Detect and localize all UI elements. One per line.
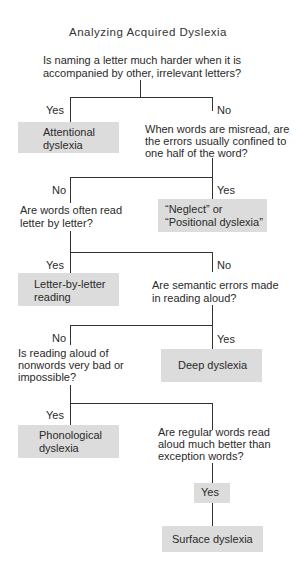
connector-yes-to-surface [212,503,213,526]
outcome-attentional-line2: dyslexia [43,139,119,152]
outcome-surface-line1: Surface dyslexia [172,533,263,546]
connector-q1-no [212,97,213,111]
question-2-line1: When words are misread, are [145,123,289,135]
outcome-phonological-dyslexia: Phonological dyslexia [18,425,119,458]
question-5-line3: impossible? [18,371,124,383]
outcome-neglect-line2: “Positional dyslexia” [165,216,267,229]
question-5: Is reading aloud of nonwords very bad or… [18,347,124,383]
label-q6-yes: Yes [201,486,230,499]
outcome-phonological-line2: dyslexia [39,442,119,455]
connector-q4-yes [212,325,213,349]
question-2-line3: one half of the word? [145,147,289,159]
outcome-deep-dyslexia: Deep dyslexia [161,349,262,382]
question-3: Are words often read letter by letter? [20,204,122,229]
outcome-surface-dyslexia: Surface dyslexia [162,526,263,552]
connector-q1-yes [70,97,71,122]
connector-q5-yes [70,403,71,425]
diagram-title: Analyzing Acquired Dyslexia [0,26,296,38]
outcome-letter-by-letter-line2: reading [34,291,119,304]
label-q1-yes: Yes [46,104,64,116]
outcome-letter-by-letter-reading: Letter-by-letter reading [18,273,119,306]
connector-q3-no [212,252,213,272]
connector-q2-yes [212,177,213,199]
connector-q4-branch [70,325,213,326]
label-q2-no: No [52,184,66,196]
connector-q2-no [70,177,71,203]
question-1: Is naming a letter much harder when it i… [43,54,241,79]
label-q3-yes: Yes [46,259,64,271]
outcome-letter-by-letter-line1: Letter-by-letter [34,278,119,291]
outcome-attentional-line1: Attentional [43,126,119,139]
question-1-line1: Is naming a letter much harder when it i… [43,54,241,67]
connector-q2-branch [70,177,213,178]
question-6-line1: Are regular words read [158,426,271,438]
question-3-line1: Are words often read [20,204,122,217]
connector-q5-branch [70,403,213,404]
outcome-phonological-line1: Phonological [39,429,119,442]
question-2-line2: the errors usually confined to [145,135,289,147]
label-q3-no: No [217,259,231,271]
question-4: Are semantic errors made in reading alou… [152,279,279,304]
label-q6-yes-box: Yes [194,483,230,503]
outcome-attentional-dyslexia: Attentional dyslexia [18,122,119,153]
connector-q6-down [212,463,213,483]
question-5-line2: nonwords very bad or [18,359,124,371]
outcome-neglect-positional-dyslexia: “Neglect” or “Positional dyslexia” [158,199,267,232]
outcome-neglect-line1: “Neglect” or [165,203,267,216]
connector-q1-down [140,80,141,98]
question-6: Are regular words read aloud much better… [158,426,271,462]
question-1-line2: accompanied by other, irrelevant letters… [43,67,241,80]
outcome-deep-line1: Deep dyslexia [178,359,262,372]
label-q1-no: No [217,104,231,116]
connector-q3-branch [70,252,213,253]
label-q4-yes: Yes [217,333,235,345]
question-3-line2: letter by letter? [20,217,122,230]
question-4-line1: Are semantic errors made [152,279,279,292]
question-6-line3: exception words? [158,450,271,462]
label-q2-yes: Yes [217,184,235,196]
question-4-line2: in reading aloud? [152,292,279,305]
question-2: When words are misread, are the errors u… [145,123,289,159]
connector-q3-yes [70,252,71,273]
connector-q4-down [212,305,213,326]
connector-q1-branch [70,97,213,98]
connector-q2-down [212,158,213,178]
connector-q5-down [70,385,71,404]
question-6-line2: aloud much better than [158,438,271,450]
label-q4-no: No [52,332,66,344]
label-q5-yes: Yes [46,409,64,421]
connector-q3-down [70,231,71,253]
question-5-line1: Is reading aloud of [18,347,124,359]
connector-q4-no [70,325,71,345]
